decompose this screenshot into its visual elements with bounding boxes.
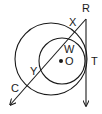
label-x: X <box>69 16 77 28</box>
label-o: O <box>65 55 74 67</box>
label-t: T <box>91 55 98 67</box>
label-y: Y <box>30 65 38 77</box>
geometry-diagram: R X W O T Y C <box>0 0 102 114</box>
label-c: C <box>11 82 19 94</box>
center-point-o <box>59 59 63 63</box>
label-r: R <box>82 2 90 14</box>
label-w: W <box>64 43 75 55</box>
secant-line-rc <box>10 19 86 105</box>
